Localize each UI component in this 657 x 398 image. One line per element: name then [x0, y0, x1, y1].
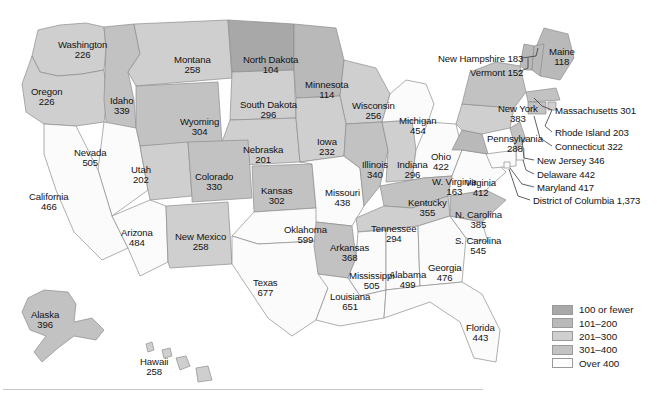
state-value-CA: 466 — [29, 202, 69, 212]
state-value-UT: 202 — [131, 175, 151, 185]
state-label-CA: California466 — [29, 192, 69, 213]
callout-value-DE: 442 — [579, 169, 595, 180]
legend-swatch-b1 — [552, 305, 573, 315]
state-value-IL: 340 — [362, 170, 388, 180]
state-label-ND: North Dakota104 — [243, 55, 298, 76]
legend-label-b4: 301–400 — [579, 344, 617, 355]
state-label-OR: Oregon226 — [31, 87, 62, 108]
callout-name-NH: New Hampshire — [438, 53, 505, 64]
callout-label-MD: Maryland 417 — [537, 183, 594, 193]
leader-line-DE — [523, 160, 534, 174]
state-shape-DC[interactable] — [504, 162, 510, 168]
state-label-OH: Ohio422 — [431, 152, 451, 173]
state-value-MO: 438 — [325, 198, 360, 208]
legend-row-b3[interactable]: 201–300 — [552, 330, 633, 343]
state-value-SD: 296 — [240, 110, 297, 120]
state-label-AK: Alaska396 — [31, 310, 59, 331]
state-value-WY: 304 — [180, 127, 219, 137]
callout-label-CT: Connecticut 322 — [555, 142, 623, 152]
callout-name-VT: Vermont — [470, 67, 505, 78]
state-label-AL: Alabama499 — [389, 270, 426, 291]
state-value-TX: 677 — [253, 288, 278, 298]
state-label-NY: New York383 — [498, 104, 538, 125]
state-label-LA: Louisiana651 — [330, 292, 370, 313]
state-label-TN: Tennessee294 — [371, 224, 417, 245]
us-choropleth-map: Washington226Oregon226Idaho339Montana258… — [0, 0, 657, 398]
state-label-ME: Maine118 — [549, 47, 575, 68]
state-label-UT: Utah202 — [131, 165, 151, 186]
state-label-HI: Hawaii258 — [140, 357, 168, 378]
callout-value-DC: 1,373 — [617, 195, 641, 206]
leader-line-MD — [510, 168, 534, 187]
state-label-GA: Georgia476 — [428, 263, 461, 284]
state-value-AZ: 484 — [121, 238, 153, 248]
legend-row-b1[interactable]: 100 or fewer — [552, 303, 633, 316]
state-label-TX: Texas677 — [253, 278, 278, 299]
callout-label-MA: Massachusetts 301 — [555, 106, 636, 116]
state-value-NE: 201 — [243, 155, 283, 165]
state-value-CO: 330 — [195, 182, 233, 192]
state-value-WI: 256 — [352, 111, 395, 121]
state-value-KS: 302 — [261, 196, 292, 206]
state-value-NV: 505 — [74, 158, 106, 168]
state-value-IN: 296 — [397, 170, 428, 180]
state-value-NC: 385 — [455, 220, 502, 230]
state-label-MN: Minnesota114 — [305, 80, 348, 101]
callout-name-DE: Delaware — [537, 169, 577, 180]
state-value-KY: 355 — [408, 208, 447, 218]
state-value-MI: 454 — [399, 126, 437, 136]
legend-label-b2: 101–200 — [579, 318, 617, 329]
state-label-NE: Nebraska201 — [243, 145, 283, 166]
state-value-PA: 288 — [487, 144, 543, 154]
state-value-FL: 443 — [466, 333, 495, 343]
callout-name-MD: Maryland — [537, 182, 576, 193]
state-value-MT: 258 — [174, 65, 211, 75]
state-label-MI: Michigan454 — [399, 116, 437, 137]
callout-value-RI: 203 — [613, 127, 629, 138]
callout-name-RI: Rhode Island — [555, 127, 610, 138]
state-value-NY: 383 — [498, 114, 538, 124]
state-value-SC: 545 — [455, 246, 501, 256]
legend-label-b5: Over 400 — [579, 358, 619, 369]
callout-label-DE: Delaware 442 — [537, 170, 595, 180]
callout-value-MA: 301 — [620, 105, 636, 116]
state-label-SC: S. Carolina545 — [455, 236, 501, 257]
state-label-CO: Colorado330 — [195, 172, 233, 193]
callout-value-NH: 183 — [508, 53, 524, 64]
state-label-PA: Pennsylvania288 — [487, 134, 543, 155]
legend-row-b4[interactable]: 301–400 — [552, 343, 633, 356]
state-value-GA: 476 — [428, 273, 461, 283]
callout-name-CT: Connecticut — [555, 141, 605, 152]
state-label-MS: Mississippi505 — [349, 271, 394, 292]
callout-value-VT: 152 — [508, 67, 524, 78]
callout-value-NJ: 346 — [589, 155, 605, 166]
callout-label-NH: New Hampshire 183 — [438, 54, 523, 64]
state-label-SD: South Dakota296 — [240, 100, 297, 121]
state-label-FL: Florida443 — [466, 323, 495, 344]
legend-row-b5[interactable]: Over 400 — [552, 357, 633, 370]
callout-label-NJ: New Jersey 346 — [537, 156, 604, 166]
map-legend: 100 or fewer101–200201–300301–400Over 40… — [552, 303, 633, 370]
legend-row-b2[interactable]: 101–200 — [552, 316, 633, 329]
callout-name-MA: Massachusetts — [555, 105, 618, 116]
state-label-WI: Wisconsin256 — [352, 101, 395, 122]
state-label-WV: W. Virginia163 — [432, 177, 477, 198]
callout-name-DC: District of Columbia — [533, 195, 614, 206]
leader-line-DC — [509, 169, 530, 200]
state-shape-MT[interactable] — [128, 20, 232, 86]
state-label-AZ: Arizona484 — [121, 228, 153, 249]
state-label-NM: New Mexico258 — [175, 232, 226, 253]
callout-label-RI: Rhode Island 203 — [555, 128, 629, 138]
legend-swatch-b2 — [552, 318, 573, 328]
state-shape-MA[interactable] — [526, 88, 560, 102]
state-label-OK: Oklahoma599 — [284, 225, 327, 246]
state-label-WY: Wyoming304 — [180, 117, 219, 138]
state-value-NM: 258 — [175, 242, 226, 252]
callout-name-NJ: New Jersey — [537, 155, 586, 166]
state-label-NC: N. Carolina385 — [455, 210, 502, 231]
callout-label-DC: District of Columbia 1,373 — [533, 196, 640, 206]
state-label-KS: Kansas302 — [261, 186, 292, 207]
legend-swatch-b4 — [552, 345, 573, 355]
state-value-AL: 499 — [389, 280, 426, 290]
state-value-OK: 599 — [284, 235, 327, 245]
